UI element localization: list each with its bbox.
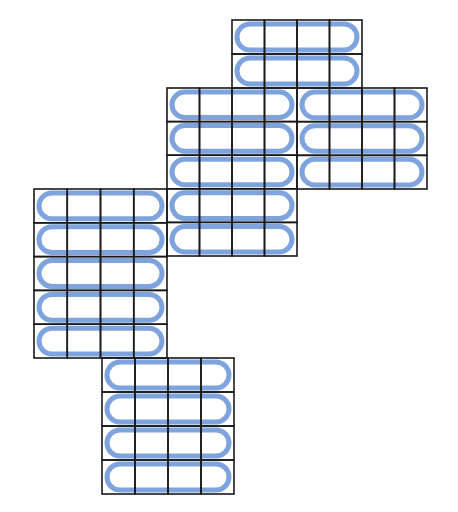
grid-diagram	[0, 0, 458, 512]
grid-block-E	[102, 358, 234, 494]
grid-block-A	[232, 20, 362, 88]
grid-block-C	[297, 88, 427, 189]
grid-block-D	[34, 189, 167, 358]
grid-block-B	[167, 88, 297, 256]
